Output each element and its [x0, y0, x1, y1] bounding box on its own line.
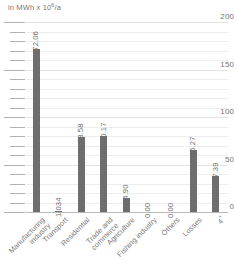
y-tick-minor: [10, 89, 25, 90]
y-tick-minor: [10, 193, 25, 194]
y-tick-minor: [10, 41, 25, 42]
unit-prefix: in MWh x 10: [8, 3, 51, 12]
y-tick-minor: [10, 127, 25, 128]
gridline-minor: [26, 89, 228, 90]
y-tick-minor: [10, 51, 25, 52]
y-tick-major: [4, 22, 25, 23]
gridline-major: [26, 70, 228, 71]
category-footnote-marker: *: [217, 214, 223, 220]
y-axis-unit-caption: in MWh x 106/a: [8, 3, 61, 12]
y-tick-major: [4, 165, 25, 166]
y-tick-minor: [10, 136, 25, 137]
gridline-minor: [26, 146, 228, 147]
bar-value-label: 1.034: [54, 198, 63, 218]
y-tick-minor: [10, 108, 25, 109]
y-tick-major: [4, 117, 25, 118]
bar: [33, 49, 40, 212]
unit-suffix: /a: [55, 3, 62, 12]
bar-value-label: 0.00: [166, 203, 175, 218]
bar-value-label: 172.06: [31, 31, 40, 55]
y-tick-label: 200: [210, 12, 234, 21]
y-tick-minor: [10, 146, 25, 147]
bar-value-label: 80.17: [99, 122, 108, 142]
bar-value-label: 65.27: [188, 136, 197, 156]
gridline-minor: [26, 32, 228, 33]
y-tick-minor: [10, 32, 25, 33]
bar-chart: in MWh x 106/a 050100150200 Manufacturin…: [0, 0, 234, 279]
gridline-minor: [26, 51, 228, 52]
gridline-minor: [26, 174, 228, 175]
gridline-minor: [26, 127, 228, 128]
bar-value-label: 37.39: [211, 163, 220, 183]
gridline-major: [26, 117, 228, 118]
y-tick-major: [4, 70, 25, 71]
bar-value-label: 14.90: [121, 184, 130, 204]
gridline-major: [26, 22, 228, 23]
y-tick-minor: [10, 79, 25, 80]
y-tick-major: [4, 212, 25, 213]
bar: [78, 137, 85, 212]
y-tick-minor: [10, 184, 25, 185]
bar: [190, 150, 197, 212]
x-axis-category-label: Manufacturing industry: [0, 216, 53, 279]
bar-value-label: 78.58: [76, 124, 85, 144]
gridline-minor: [26, 98, 228, 99]
y-tick-minor: [10, 98, 25, 99]
y-tick-minor: [10, 203, 25, 204]
gridline-minor: [26, 79, 228, 80]
gridline-minor: [26, 108, 228, 109]
y-tick-minor: [10, 155, 25, 156]
bar: [100, 136, 107, 212]
y-tick-minor: [10, 60, 25, 61]
gridline-minor: [26, 60, 228, 61]
gridline-minor: [26, 136, 228, 137]
gridline-major: [26, 165, 228, 166]
gridline-minor: [26, 41, 228, 42]
y-tick-minor: [10, 174, 25, 175]
gridline-minor: [26, 155, 228, 156]
bar-value-label: 0.00: [143, 203, 152, 218]
